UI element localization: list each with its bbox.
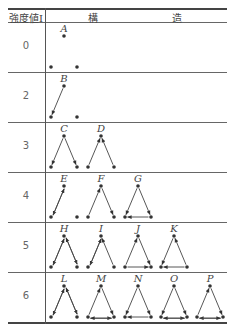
node-right bbox=[75, 115, 79, 119]
node-left bbox=[123, 265, 127, 269]
edge-top-to-right bbox=[102, 288, 113, 314]
structure-K: K bbox=[159, 223, 189, 269]
edge-left-to-top bbox=[198, 288, 209, 314]
edge-left-to-top bbox=[89, 288, 100, 314]
edge-top-to-left bbox=[162, 288, 173, 314]
edge-top-to-right bbox=[65, 138, 76, 164]
node-right bbox=[75, 215, 79, 219]
node-right bbox=[221, 315, 225, 319]
edge-right-to-top bbox=[102, 138, 113, 164]
edge-top-to-right bbox=[102, 188, 113, 214]
node-left bbox=[123, 315, 127, 319]
structure-J: J bbox=[123, 223, 153, 269]
node-left bbox=[49, 315, 53, 319]
edge-right-to-top bbox=[66, 288, 77, 314]
edge-top-to-right bbox=[139, 188, 150, 214]
node-top bbox=[62, 134, 66, 138]
structure-label: F bbox=[97, 173, 106, 184]
node-left bbox=[86, 315, 90, 319]
node-right bbox=[185, 315, 189, 319]
node-top bbox=[62, 234, 66, 238]
node-top bbox=[62, 34, 66, 38]
structure-B: B bbox=[49, 73, 79, 119]
node-top bbox=[136, 184, 140, 188]
structure-D: D bbox=[86, 123, 116, 169]
structure-label: E bbox=[59, 173, 68, 184]
node-right bbox=[75, 65, 79, 69]
node-left bbox=[123, 215, 127, 219]
node-right bbox=[112, 215, 116, 219]
node-right bbox=[75, 265, 79, 269]
edge-top-to-left bbox=[52, 88, 63, 114]
edge-right-to-top bbox=[102, 238, 113, 264]
edge-left-to-top bbox=[53, 289, 64, 315]
structure-L: L bbox=[49, 273, 79, 319]
structure-label: C bbox=[60, 123, 68, 134]
node-right bbox=[149, 215, 153, 219]
structure-label: M bbox=[95, 273, 107, 284]
structure-label: J bbox=[134, 223, 141, 234]
structure-G: G bbox=[123, 173, 153, 219]
node-top bbox=[172, 284, 176, 288]
node-left bbox=[49, 115, 53, 119]
node-right bbox=[112, 315, 116, 319]
node-top bbox=[99, 234, 103, 238]
node-top bbox=[99, 284, 103, 288]
structure-I: I bbox=[86, 223, 116, 269]
node-left bbox=[86, 165, 90, 169]
structure-label: K bbox=[169, 223, 178, 234]
edge-left-to-top bbox=[126, 238, 137, 264]
node-right bbox=[185, 265, 189, 269]
structure-label: N bbox=[133, 273, 144, 284]
structure-H: H bbox=[49, 223, 79, 269]
edge-top-to-right bbox=[175, 288, 186, 314]
edge-top-to-left bbox=[126, 288, 137, 314]
node-left bbox=[159, 265, 163, 269]
edge-left-to-top bbox=[53, 239, 64, 265]
structure-label: G bbox=[134, 173, 142, 184]
node-left bbox=[49, 265, 53, 269]
node-left bbox=[49, 215, 53, 219]
node-right bbox=[75, 165, 79, 169]
edge-right-to-top bbox=[175, 238, 186, 264]
node-top bbox=[99, 184, 103, 188]
edge-top-to-right bbox=[139, 288, 150, 314]
structure-N: N bbox=[123, 273, 153, 319]
structure-label: D bbox=[96, 123, 105, 134]
node-top bbox=[99, 134, 103, 138]
edge-left-to-top bbox=[90, 239, 101, 265]
structure-E: E bbox=[49, 173, 79, 219]
structure-diagrams: ABCDEFGHIJKLMNOP bbox=[0, 0, 231, 325]
structure-P: P bbox=[195, 273, 225, 319]
node-left bbox=[86, 215, 90, 219]
edge-top-to-left bbox=[126, 188, 137, 214]
structure-label: L bbox=[60, 273, 68, 284]
node-left bbox=[49, 165, 53, 169]
node-top bbox=[136, 284, 140, 288]
structure-M: M bbox=[86, 273, 116, 319]
node-top bbox=[136, 234, 140, 238]
edge-top-to-left bbox=[162, 238, 173, 264]
node-right bbox=[112, 165, 116, 169]
node-right bbox=[149, 265, 153, 269]
node-right bbox=[75, 315, 79, 319]
edge-top-to-right bbox=[139, 238, 150, 264]
node-top bbox=[208, 284, 212, 288]
node-left bbox=[195, 315, 199, 319]
edge-right-to-top bbox=[66, 238, 77, 264]
structure-label: B bbox=[59, 73, 67, 84]
edge-left-to-top bbox=[53, 189, 64, 215]
structure-O: O bbox=[159, 273, 189, 319]
structure-label: I bbox=[98, 223, 104, 234]
edge-top-to-left bbox=[52, 138, 63, 164]
structure-F: F bbox=[86, 173, 116, 219]
node-top bbox=[62, 84, 66, 88]
structure-label: P bbox=[206, 273, 214, 284]
structure-label: H bbox=[59, 223, 69, 234]
node-left bbox=[49, 65, 53, 69]
edge-left-to-top bbox=[89, 188, 100, 214]
structure-label: O bbox=[170, 273, 178, 284]
node-right bbox=[112, 265, 116, 269]
node-right bbox=[149, 315, 153, 319]
edge-top-to-right bbox=[211, 288, 222, 314]
